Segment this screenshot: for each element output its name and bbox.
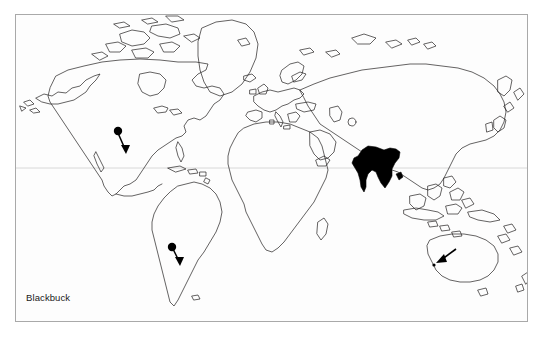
distribution-map-figure: Blackbuck bbox=[0, 0, 544, 339]
marker-south-america bbox=[168, 243, 184, 266]
map-caption-label: Blackbuck bbox=[26, 292, 70, 304]
marker-north-america bbox=[114, 127, 130, 154]
world-map-graphic bbox=[0, 0, 544, 339]
coastlines bbox=[20, 16, 531, 306]
marker-australia bbox=[432, 249, 456, 267]
native-range-india bbox=[352, 146, 403, 192]
